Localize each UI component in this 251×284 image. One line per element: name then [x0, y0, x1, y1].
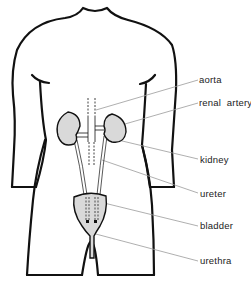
left-kidney [57, 112, 80, 145]
label-urethra: urethra [200, 255, 232, 266]
left-ureter-opening [86, 220, 89, 223]
label-renal-artery: renal artery [199, 97, 251, 108]
bladder-organ [74, 193, 107, 258]
right-kidney [104, 114, 126, 142]
label-bladder: bladder [200, 220, 233, 231]
right-ureter-opening [94, 220, 97, 223]
label-kidney: kidney [200, 154, 229, 165]
left-ureter-b [77, 140, 87, 195]
leader-urethra [92, 233, 198, 261]
urinary-system-diagram: aorta renal artery kidney ureter bladder… [0, 0, 251, 284]
right-armpit [140, 75, 155, 84]
right-ureter-b [100, 136, 107, 195]
label-ureter: ureter [200, 188, 226, 199]
leader-kidney [118, 140, 198, 159]
body-outline-drawing [0, 0, 251, 284]
label-aorta: aorta [199, 74, 222, 85]
right-torso-side [142, 145, 154, 275]
renal-artery-right [95, 126, 104, 130]
renal-artery-left [76, 133, 88, 137]
